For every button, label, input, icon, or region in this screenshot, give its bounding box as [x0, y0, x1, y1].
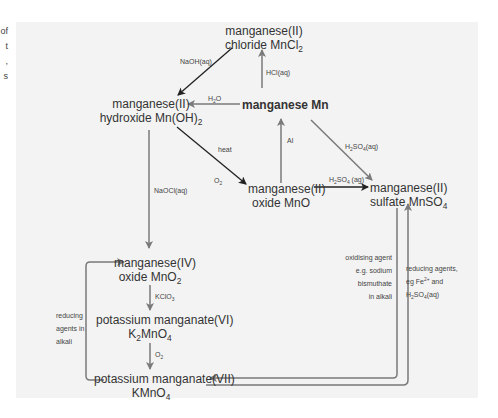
node-label: manganese Mn: [242, 98, 329, 112]
node-manganese-ii-hydroxide: manganese(II) hydroxide Mn(OH)2: [96, 97, 206, 125]
formula-text: oxide MnO: [119, 270, 177, 284]
reagent-h2so4-diagonal: H2SO4(aq): [345, 142, 378, 151]
note-reducing-agents-acid: reducing agents, eg Fe2+ and H2SO4(aq): [406, 262, 486, 301]
reagent-text: SO: [337, 176, 347, 183]
arrow-hydroxide-to-oxide: [177, 127, 246, 184]
note-line: agents in: [56, 322, 90, 335]
reagent-kclo3: KClO3: [155, 292, 174, 301]
reagent-h2so4-horizontal: H2SO4 (ag): [329, 175, 364, 184]
node-manganese-metal: manganese Mn: [242, 98, 326, 112]
note-line: in alkali: [330, 290, 392, 303]
reagent-hcl: HCl(aq): [266, 68, 290, 77]
subscript: 2: [177, 276, 182, 286]
subscript: 2: [198, 117, 203, 127]
node-manganese-iv-oxide: manganese(IV) oxide MnO2: [114, 256, 186, 284]
node-line: manganese(II): [248, 182, 314, 196]
subscript: 2: [160, 355, 163, 360]
subscript: 2: [219, 181, 222, 186]
formula-text: hydroxide Mn(OH): [100, 111, 198, 125]
node-manganese-ii-sulfate: manganese(II) sulfate MnSO4: [370, 181, 438, 209]
node-formula: chloride MnCl2: [212, 38, 316, 52]
reagent-al: Al: [287, 136, 293, 145]
note-line: reducing agents,: [406, 262, 486, 275]
subscript: 4: [443, 201, 448, 211]
node-formula: oxide MnO: [248, 196, 314, 210]
node-formula: sulfate MnSO4: [370, 195, 438, 209]
note-line: oxidising agent: [330, 251, 392, 264]
node-manganese-ii-chloride: manganese(II) chloride MnCl2: [212, 24, 316, 52]
reagent-text: (aq): [366, 143, 378, 150]
note-line: alkali: [56, 335, 90, 348]
note-line: eg Fe2+ and: [406, 275, 486, 288]
reagent-h2o: H2O: [208, 94, 221, 103]
reagent-text: SO: [353, 143, 363, 150]
note-line: H2SO4(aq): [406, 288, 486, 301]
note-line: bismuthate: [330, 277, 392, 290]
node-line: manganese(II): [96, 97, 206, 111]
subscript: 3: [172, 297, 175, 302]
subscript: 2: [298, 44, 303, 54]
node-potassium-manganate-vi: potassium manganate(VI) K2MnO4: [96, 313, 204, 341]
formula-text: sulfate MnSO: [370, 195, 443, 209]
note-reducing-agents-alkali: reducing agents in alkali: [56, 309, 90, 348]
note-text: SO: [414, 291, 424, 298]
node-formula: hydroxide Mn(OH)2: [96, 111, 206, 125]
node-formula: oxide MnO2: [114, 270, 186, 284]
node-line: potassium manganate(VII): [94, 372, 208, 386]
subscript: 4: [167, 333, 172, 343]
note-text: eg Fe: [406, 278, 424, 285]
note-line: e.g. sodium: [330, 264, 392, 277]
note-oxidising-agent: oxidising agent e.g. sodium bismuthate i…: [330, 251, 392, 303]
reagent-o2-bottom: O2: [155, 350, 163, 359]
node-manganese-ii-oxide: manganese(II) oxide MnO: [248, 182, 314, 210]
node-formula: K2MnO4: [96, 327, 204, 341]
note-line: reducing: [56, 309, 90, 322]
formula-text: chloride MnCl: [225, 38, 298, 52]
note-text: (aq): [427, 291, 439, 298]
reagent-heat: heat: [218, 145, 232, 154]
reagent-o2-top: O2: [214, 176, 222, 185]
node-formula: KMnO4: [94, 386, 208, 400]
node-line: manganese(II): [370, 181, 438, 195]
node-line: potassium manganate(VI): [96, 313, 204, 327]
reagent-naoh: NaOH(aq): [180, 57, 212, 66]
reagent-text: KClO: [155, 293, 172, 300]
node-line: manganese(IV): [114, 256, 186, 270]
formula-text: KMnO: [132, 386, 166, 400]
formula-text: MnO: [141, 327, 167, 341]
reagent-text: O: [216, 95, 221, 102]
node-potassium-manganate-vii: potassium manganate(VII) KMnO4: [94, 372, 208, 400]
reagent-naocl: NaOCl(aq): [154, 186, 187, 195]
node-line: manganese(II): [212, 24, 316, 38]
subscript: 4: [166, 392, 171, 402]
note-text: and: [429, 278, 443, 285]
arrow-chloride-to-hydroxide: [178, 48, 232, 95]
reagent-text: (ag): [350, 176, 364, 183]
